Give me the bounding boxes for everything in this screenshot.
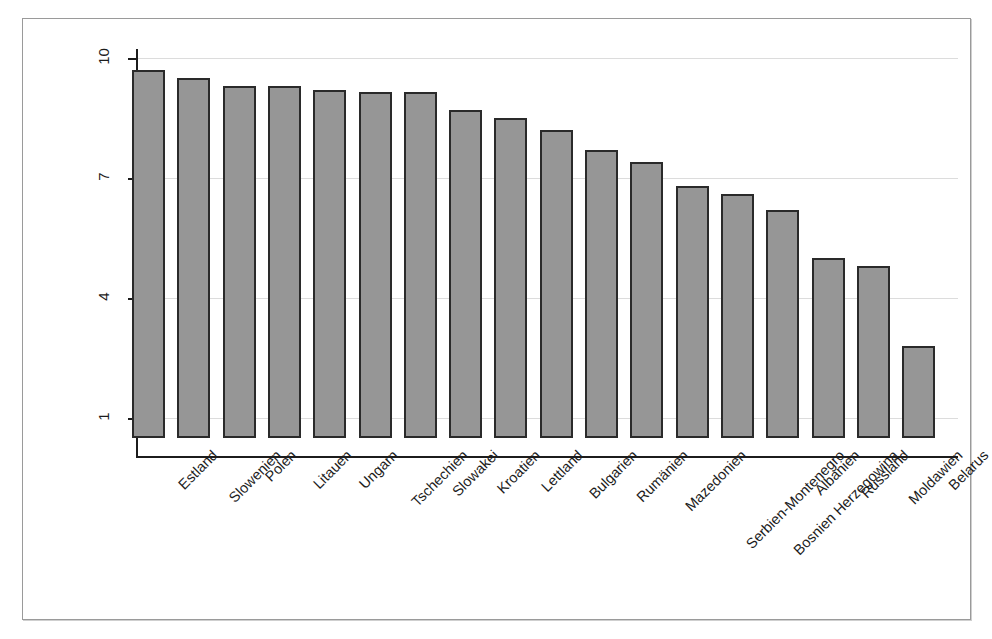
figure-frame: 10741 EstlandSlowenienPolenLitauenUngarn… xyxy=(22,18,971,620)
x-axis-labels: EstlandSlowenienPolenLitauenUngarnTschec… xyxy=(23,19,970,619)
x-tick-label: Serbien-Montenegro xyxy=(743,447,848,552)
x-tick-label: Mazedonien xyxy=(682,447,749,514)
plot-area: 10741 EstlandSlowenienPolenLitauenUngarn… xyxy=(23,19,970,619)
x-tick-label: Rumänien xyxy=(633,447,691,505)
x-tick-label: Ungarn xyxy=(356,447,401,492)
x-tick-label: Lettland xyxy=(538,447,586,495)
caption-strip xyxy=(24,626,968,638)
x-tick-label: Litauen xyxy=(310,447,355,492)
x-tick-label: Estland xyxy=(175,447,221,493)
x-tick-label: Kroatien xyxy=(493,447,543,497)
